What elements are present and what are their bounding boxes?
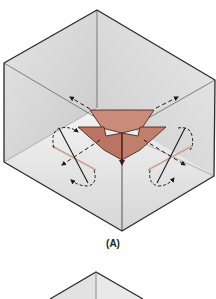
panel-label-a: (A) [96,238,130,249]
cube-diagram-a [0,0,216,299]
cube-b-partial [50,272,143,299]
